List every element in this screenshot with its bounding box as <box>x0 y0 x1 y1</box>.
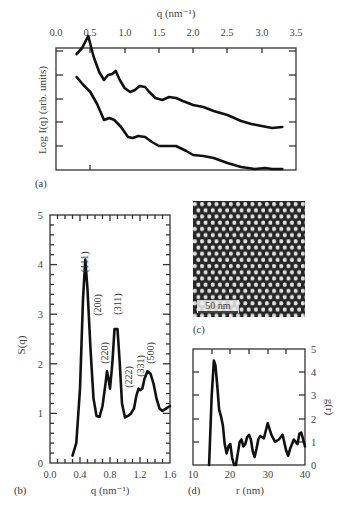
xtick-label: 0.0 <box>49 27 62 38</box>
panel-b-ticks <box>50 215 170 463</box>
figure: q (nm⁻¹) 0.0 0.5 1.0 1.5 2.0 2.5 3.0 3.5… <box>0 0 341 510</box>
panel-b-xticklabels: 0.0 0.4 0.8 1.2 1.6 <box>43 469 176 480</box>
panel-b-ylabel: S(q) <box>15 335 28 354</box>
xtick-label: 10 <box>188 469 199 480</box>
panel-b-frame <box>50 215 170 463</box>
xtick-label: 1.6 <box>163 469 176 480</box>
xtick-label: 1.0 <box>118 27 131 38</box>
peak-label-311: (311) <box>112 293 124 314</box>
peak-label-111: (111) <box>79 252 91 273</box>
xtick-label: 0.4 <box>73 469 87 480</box>
panel-a-upper-curve <box>77 36 283 128</box>
xtick-label: 20 <box>225 469 236 480</box>
peak-label-222: (222) <box>123 366 135 388</box>
xtick-label: 0.0 <box>43 469 56 480</box>
panel-d-xlabel: r (nm) <box>236 484 264 497</box>
xtick-label: 2.5 <box>220 27 233 38</box>
xtick-label: 3.5 <box>289 27 302 38</box>
xtick-label: 30 <box>263 469 274 480</box>
panel-a: q (nm⁻¹) 0.0 0.5 1.0 1.5 2.0 2.5 3.0 3.5… <box>35 7 303 190</box>
ytick-label: 3 <box>38 309 43 320</box>
peak-label-200: (200) <box>92 294 104 316</box>
panel-b-yticklabels: 0 1 2 3 4 5 <box>38 210 44 469</box>
ytick-label: 4 <box>311 367 317 378</box>
panel-d-gr-curve <box>209 361 305 465</box>
scale-bar-label: 50 nm <box>205 300 231 311</box>
ytick-label: 2 <box>38 359 43 370</box>
ytick-label: 1 <box>38 408 43 419</box>
xtick-label: 2.0 <box>186 27 199 38</box>
panel-b: 0 1 2 3 4 5 0.0 0.4 0.8 1.2 1.6 (111) (2… <box>14 210 177 497</box>
panel-d-xticklabels: 10 20 30 40 <box>188 469 311 480</box>
panel-c-label: (c) <box>193 324 205 336</box>
panel-d-ylabel: g(r) <box>323 399 336 416</box>
ytick-label: 1 <box>311 437 316 448</box>
peak-label-500: (500) <box>145 342 157 364</box>
panel-b-xlabel: q (nm⁻¹) <box>91 484 130 497</box>
ytick-label: 0 <box>38 458 43 469</box>
ytick-label: 3 <box>311 390 316 401</box>
xtick-label: 1.2 <box>133 469 146 480</box>
ytick-label: 4 <box>38 259 44 270</box>
xtick-label: 3.0 <box>255 27 268 38</box>
ytick-label: 5 <box>38 210 43 221</box>
panel-a-ticks <box>56 48 296 170</box>
xtick-label: 1.5 <box>152 27 165 38</box>
panel-d-yticklabels: 0 1 2 3 4 5 <box>311 344 317 471</box>
panel-d-label: (d) <box>188 485 201 497</box>
panel-a-ylabel: Log I(q) (arb. units) <box>36 66 49 154</box>
ytick-label: 2 <box>311 414 316 425</box>
xtick-label: 0.8 <box>103 469 116 480</box>
ytick-label: 0 <box>311 460 316 471</box>
panel-a-xlabel: q (nm⁻¹) <box>157 7 196 20</box>
panel-a-label: (a) <box>35 178 47 190</box>
panel-d: 0 1 2 3 4 5 10 20 30 40 g(r) r (nm) (d) <box>188 344 336 497</box>
panel-a-frame <box>56 48 296 170</box>
xtick-label: 0.5 <box>83 27 96 38</box>
ytick-label: 5 <box>311 344 316 355</box>
xtick-label: 40 <box>300 469 311 480</box>
panel-c: 50 nm (c) <box>193 201 305 336</box>
peak-label-220: (220) <box>99 342 111 364</box>
panel-b-label: (b) <box>14 485 27 497</box>
